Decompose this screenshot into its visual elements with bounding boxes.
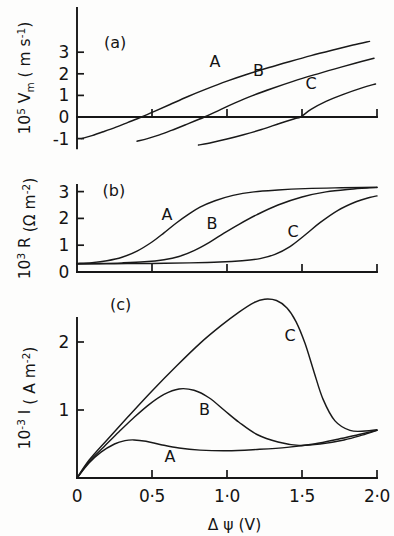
panel-b-label-a: A: [162, 205, 173, 224]
panel-a: 3210-1ABC(a)105 Vm ( m s-1): [15, 8, 377, 149]
panel-a-y-tick-label: -1: [53, 129, 69, 149]
figure-svg: 3210-1ABC(a)105 Vm ( m s-1) 3210ABC(b)10…: [0, 0, 394, 536]
panel-b-label-b: B: [207, 214, 218, 233]
panel-b-curve-c: [77, 196, 377, 264]
panel-b-y-tick-label: 0: [59, 262, 69, 282]
panel-a-y-tick-label: 0: [59, 107, 69, 127]
panel-b-label-c: C: [287, 222, 298, 241]
panel-a-label-c: C: [305, 74, 316, 93]
x-tick-label: 0: [72, 486, 82, 506]
panel-b-y-tick-label: 3: [59, 182, 69, 202]
panel-a-curve-c: [199, 84, 376, 145]
panel-a-tag: (a): [104, 33, 126, 52]
x-axis: 00·51·01·52·0Δ ψ (V): [72, 486, 390, 534]
panel-b: 3210ABC(b)103 R (Ω m-2): [15, 178, 377, 282]
panel-c-curve-b: [77, 389, 377, 478]
panel-c-y-tick-label: 1: [59, 400, 69, 420]
panel-c-tag: (c): [110, 295, 131, 314]
x-tick-label: 2·0: [364, 486, 390, 506]
panel-a-y-axis-title: 105 Vm ( m s-1): [15, 22, 36, 135]
panel-c-label-c: C: [284, 326, 295, 345]
panel-c-y-tick-label: 2: [59, 332, 69, 352]
panel-c-label-b: B: [199, 400, 210, 419]
panel-a-y-tick-label: 2: [59, 64, 69, 84]
panel-b-tag: (b): [103, 181, 126, 200]
x-tick-label: 1·0: [214, 486, 240, 506]
panel-a-y-tick-label: 3: [59, 42, 69, 62]
panel-a-curve-a: [82, 41, 370, 138]
panel-a-y-tick-label: 1: [59, 85, 69, 105]
panel-b-y-tick-label: 2: [59, 208, 69, 228]
panel-c-y-axis-title: 10-3 I ( A m-2): [15, 347, 39, 450]
x-tick-label: 0·5: [139, 486, 165, 506]
panel-c: 21CBA(c)10-3 I ( A m-2): [15, 295, 377, 478]
x-axis-title: Δ ψ (V): [208, 516, 261, 534]
panel-a-label-a: A: [210, 52, 221, 71]
panel-c-label-a: A: [165, 447, 176, 466]
panel-a-label-b: B: [253, 61, 264, 80]
panel-b-y-tick-label: 1: [59, 235, 69, 255]
x-tick-label: 1·5: [289, 486, 315, 506]
panel-b-y-axis-title: 103 R (Ω m-2): [15, 178, 39, 280]
figure-container: 3210-1ABC(a)105 Vm ( m s-1) 3210ABC(b)10…: [0, 0, 394, 536]
